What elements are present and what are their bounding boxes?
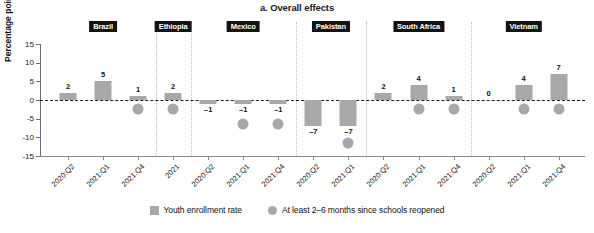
reopened-marker <box>553 103 564 114</box>
bar <box>60 93 77 100</box>
y-tick <box>36 44 40 45</box>
x-tick <box>68 156 69 160</box>
group-label-ethiopia: Ethiopia <box>155 21 192 32</box>
x-tick <box>454 156 455 160</box>
bar-value-label: –1 <box>239 106 247 114</box>
y-tick-label: 5 <box>8 77 34 86</box>
y-tick <box>36 63 40 64</box>
reopened-marker <box>413 103 424 114</box>
bar-value-label: 2 <box>171 83 175 91</box>
group-label-vietnam: Vietnam <box>505 21 541 32</box>
x-tick <box>489 156 490 160</box>
y-tick <box>36 119 40 120</box>
reopened-marker <box>238 119 249 130</box>
reopened-marker <box>343 137 354 148</box>
legend-circle-icon <box>268 206 277 215</box>
bar-value-label: 0 <box>487 90 491 98</box>
x-tick-label: 2021:Q4 <box>112 162 147 197</box>
reopened-marker <box>448 103 459 114</box>
bar <box>340 100 357 126</box>
bar-value-label: 2 <box>66 83 70 91</box>
bar-value-label: 1 <box>136 86 140 94</box>
group-label-mexico: Mexico <box>227 21 260 32</box>
bar-value-label: 1 <box>451 86 455 94</box>
bar-value-label: –7 <box>344 128 352 136</box>
reopened-marker <box>518 103 529 114</box>
x-tick <box>103 156 104 160</box>
bar <box>270 100 287 104</box>
group-label-south-africa: South Africa <box>393 21 444 32</box>
reopened-marker <box>273 119 284 130</box>
x-tick-label: 2021:Q1 <box>322 162 357 197</box>
x-tick <box>173 156 174 160</box>
chart-title: a. Overall effects <box>0 2 594 13</box>
x-tick <box>278 156 279 160</box>
x-tick-label: 2021:Q4 <box>532 162 567 197</box>
bar-value-label: –1 <box>274 106 282 114</box>
x-tick <box>313 156 314 160</box>
legend-label-enrollment: Youth enrollment rate <box>164 205 242 215</box>
x-tick-label: 2020:Q2 <box>42 162 77 197</box>
x-tick-label: 2021:Q1 <box>217 162 252 197</box>
y-tick <box>36 137 40 138</box>
bar <box>130 96 147 100</box>
x-tick-label: 2020:Q2 <box>462 162 497 197</box>
bar-value-label: 4 <box>522 75 526 83</box>
legend-item-enrollment: Youth enrollment rate <box>150 205 242 215</box>
bar <box>410 85 427 100</box>
x-tick-label: 2021:Q1 <box>392 162 427 197</box>
x-tick <box>383 156 384 160</box>
reopened-marker <box>133 103 144 114</box>
legend-label-reopened: At least 2–6 months since schools reopen… <box>282 205 445 215</box>
y-tick-label: -10 <box>8 133 34 142</box>
bar <box>200 100 217 104</box>
x-tick <box>243 156 244 160</box>
x-tick-label: 2021:Q4 <box>427 162 462 197</box>
chart-root: a. Overall effects Percentage point chan… <box>0 0 594 233</box>
bar <box>235 100 252 104</box>
x-tick-label: 2021:Q1 <box>497 162 532 197</box>
y-tick-label: 10 <box>8 58 34 67</box>
x-tick <box>524 156 525 160</box>
x-tick <box>348 156 349 160</box>
bar-value-label: –1 <box>204 106 212 114</box>
x-tick <box>559 156 560 160</box>
bar <box>95 81 112 100</box>
x-tick-label: 2020:Q2 <box>287 162 322 197</box>
y-tick <box>36 81 40 82</box>
bar-value-label: 2 <box>381 83 385 91</box>
bar-value-label: –7 <box>309 128 317 136</box>
legend-item-reopened: At least 2–6 months since schools reopen… <box>268 205 445 215</box>
legend-square-icon <box>150 206 159 215</box>
x-tick-label: 2021 <box>147 162 182 197</box>
group-separator <box>471 22 472 156</box>
group-separator <box>191 22 192 156</box>
x-tick <box>138 156 139 160</box>
x-tick <box>208 156 209 160</box>
x-tick-label: 2021:Q4 <box>252 162 287 197</box>
y-tick-label: 15 <box>8 40 34 49</box>
x-tick-label: 2020:Q2 <box>357 162 392 197</box>
bar <box>515 85 532 100</box>
y-tick-label: -5 <box>8 114 34 123</box>
bar-value-label: 4 <box>416 75 420 83</box>
x-tick-label: 2021:Q1 <box>77 162 112 197</box>
group-label-brazil: Brazil <box>89 21 117 32</box>
x-tick-label: 2020:Q2 <box>182 162 217 197</box>
group-separator <box>156 22 157 156</box>
bar <box>445 96 462 100</box>
chart-legend: Youth enrollment rate At least 2–6 month… <box>0 205 594 215</box>
bar <box>165 93 182 100</box>
bar-value-label: 7 <box>557 64 561 72</box>
group-separator <box>296 22 297 156</box>
group-separator <box>366 22 367 156</box>
bar <box>550 74 567 100</box>
plot-area: Percentage point change 151050-5-10-15 B… <box>40 44 585 156</box>
bar <box>375 93 392 100</box>
x-tick <box>419 156 420 160</box>
y-tick-label: -15 <box>8 152 34 161</box>
reopened-marker <box>168 103 179 114</box>
bar <box>305 100 322 126</box>
bar-value-label: 5 <box>101 71 105 79</box>
group-label-pakistan: Pakistan <box>312 21 350 32</box>
